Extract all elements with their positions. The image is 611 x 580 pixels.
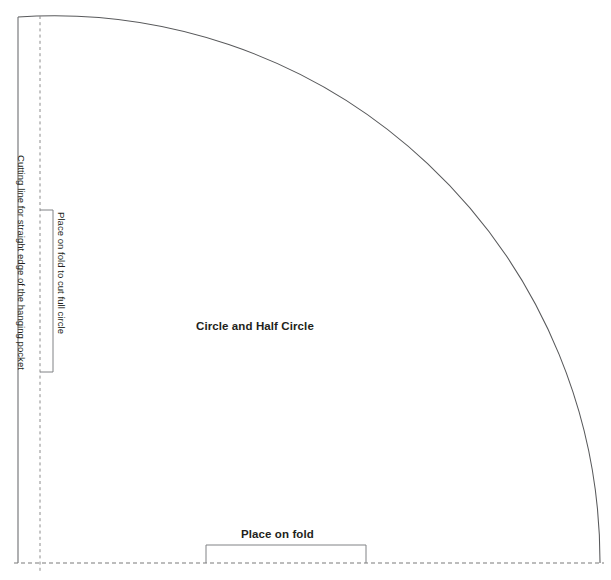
- cutting-arc-line: [18, 16, 600, 563]
- bottom-fold-bracket: [206, 545, 366, 563]
- pattern-title-label: Circle and Half Circle: [196, 321, 314, 333]
- side-fold-bracket: [40, 210, 53, 372]
- pattern-canvas: [0, 0, 611, 580]
- side-fold-label: Place on fold to cut full circle: [57, 212, 67, 334]
- bottom-fold-label: Place on fold: [241, 529, 314, 541]
- pattern-diagram: Circle and Half Circle Place on fold Cut…: [0, 0, 611, 580]
- cutting-line-label: Cutting line for straight edge of the ha…: [17, 155, 27, 370]
